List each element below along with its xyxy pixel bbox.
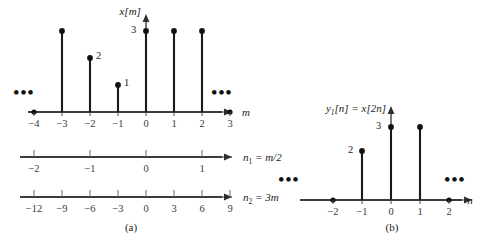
panel-a-tertiary-tick-label-0: −12 <box>26 204 42 215</box>
panel-a-secondary-tick-label-3: 1 <box>199 164 204 175</box>
stem-dot-m-2 <box>199 28 205 34</box>
panel-a-ellipsis-right: ••• <box>211 89 232 97</box>
panel-a-stems <box>31 28 232 115</box>
stem-dot-n-0 <box>388 124 394 130</box>
stem-dot-m-minus2 <box>87 55 93 61</box>
tertiary-axis-expr: = 3m <box>252 191 278 203</box>
panel-a-tertiary-tick-label-2: −6 <box>84 204 95 215</box>
panel-a-tick-label-4: 0 <box>143 119 148 130</box>
stem-dot-n-minus1 <box>359 148 365 154</box>
stem-dot-m-0 <box>143 28 149 34</box>
panel-a-signal-label: x[m] <box>119 6 140 17</box>
panel-a-axis-label-m: m <box>242 107 250 118</box>
panel-a-tick-label-1: −3 <box>56 119 67 130</box>
panel-a-tertiary-tick-label-6: 6 <box>199 204 204 215</box>
panel-b-stems <box>330 124 451 202</box>
panel-a-secondary-axis-label: n1 = m/2 <box>243 152 282 167</box>
panel-b-signal-label: y1[n] = x[2n] <box>326 103 386 118</box>
panel-b-signal-expr: [n] = x[2n] <box>335 102 386 114</box>
panel-a-tertiary-axis-label: n2 = 3m <box>243 192 279 207</box>
panel-a-value-label-2: 2 <box>96 51 101 62</box>
panel-a-ellipsis-left: ••• <box>13 89 34 97</box>
panel-a-tick-label-3: −1 <box>112 119 123 130</box>
panel-a-value-label-1: 1 <box>124 78 129 89</box>
panel-b-value-label-3: 3 <box>376 121 381 132</box>
panel-a-tertiary-tick-label-7: 9 <box>227 204 232 215</box>
panel-a-secondary-axis <box>20 150 232 160</box>
stem-dot-m-minus1 <box>115 82 121 88</box>
panel-a-value-label-3: 3 <box>131 25 136 36</box>
panel-a-tertiary-axis <box>20 190 232 200</box>
panel-b-caption: (b) <box>386 222 399 233</box>
panel-a-tick-label-0: −4 <box>28 119 39 130</box>
panel-b-value-label-2: 2 <box>348 145 353 156</box>
panel-b-tick-label-1: −1 <box>356 207 367 218</box>
panel-a-tertiary-tick-label-1: −9 <box>56 204 67 215</box>
panel-a-tertiary-tick-label-4: 0 <box>143 204 148 215</box>
panel-a-tertiary-tick-label-5: 3 <box>171 204 176 215</box>
stem-dot-n-1 <box>417 124 423 130</box>
panel-a-tick-label-6: 2 <box>199 119 204 130</box>
panel-b-axis-label-n: n <box>467 195 473 206</box>
panel-a-tertiary-tick-label-3: −3 <box>112 204 123 215</box>
panel-a-secondary-tick-label-2: 0 <box>143 164 148 175</box>
panel-b-ellipsis-left: ••• <box>278 176 299 184</box>
signal-downsampling-figure: x[m] m ••• ••• 3 2 1 −4 −3 −2 −1 0 1 2 3… <box>0 0 494 247</box>
panel-a-tick-label-5: 1 <box>171 119 176 130</box>
panel-b-ellipsis-right: ••• <box>444 176 465 184</box>
panel-b-tick-label-2: 0 <box>388 207 393 218</box>
panel-b-tick-label-4: 2 <box>446 207 451 218</box>
stem-dot-m-1 <box>171 28 177 34</box>
panel-a-tick-label-2: −2 <box>84 119 95 130</box>
secondary-axis-expr: = m/2 <box>252 151 281 163</box>
panel-a-secondary-tick-label-0: −2 <box>28 164 39 175</box>
panel-b-tick-label-3: 1 <box>417 207 422 218</box>
panel-b-tick-label-0: −2 <box>327 207 338 218</box>
panel-a-caption: (a) <box>125 222 137 233</box>
panel-a-secondary-tick-label-1: −1 <box>84 164 95 175</box>
stem-dot-m-minus3 <box>59 28 65 34</box>
panel-a-tick-label-7: 3 <box>227 119 232 130</box>
